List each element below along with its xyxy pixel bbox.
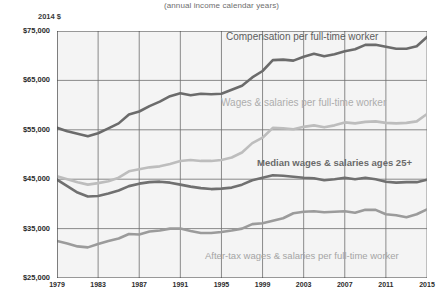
series-label-median-wages: Median wages & salaries ages 25+ (257, 157, 412, 168)
series-label-compensation: Compensation per full-time worker (226, 31, 378, 42)
plot-area (57, 31, 427, 278)
y-tick-label: $75,000 (4, 26, 50, 35)
series-label-wages-salaries: Wages & salaries per full-time worker (221, 97, 386, 108)
x-tick-label: 2007 (337, 281, 353, 288)
x-tick-label: 1987 (131, 281, 147, 288)
y-tick-label: $35,000 (4, 224, 50, 233)
series-label-after-tax: After-tax wages & salaries per full-time… (205, 250, 399, 261)
series-line-1 (57, 114, 427, 185)
chart-container: (annual income calendar years) 2014 $ $7… (0, 0, 443, 296)
y-tick-label: $45,000 (4, 174, 50, 183)
y-tick-label: $25,000 (4, 273, 50, 282)
x-tick-label: 1983 (90, 281, 106, 288)
x-tick-label: 1991 (173, 281, 189, 288)
series-lines-group (57, 37, 427, 247)
x-tick-label: 2003 (296, 281, 312, 288)
x-tick-label: 2011 (378, 281, 393, 288)
x-tick-label: 1999 (255, 281, 271, 288)
plot-svg (57, 31, 427, 278)
chart-subtitle: (annual income calendar years) (0, 1, 443, 10)
y-tick-label: $65,000 (4, 75, 50, 84)
x-tick-label: 1995 (214, 281, 230, 288)
y-axis-unit-label: 2014 $ (38, 12, 61, 21)
x-tick-label: 2015 (419, 281, 435, 288)
y-tick-label: $55,000 (4, 125, 50, 134)
x-tick-label: 1979 (49, 281, 65, 288)
